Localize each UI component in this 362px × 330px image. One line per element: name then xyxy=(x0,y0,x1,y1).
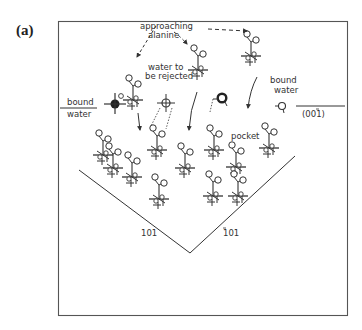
bound-water-right-molecule xyxy=(275,103,286,114)
bound-water-dark xyxy=(210,94,227,112)
water-to-be-rejected xyxy=(151,94,175,129)
label-face-101-left: 101 xyxy=(141,228,157,238)
crystal-diagram: approaching alanine water to be rejected… xyxy=(0,0,362,330)
bound-water-left-molecule xyxy=(104,93,126,114)
face-bar101-wall xyxy=(190,156,295,253)
label-pocket: pocket xyxy=(231,131,260,141)
label-face-001: (001) xyxy=(302,109,325,119)
label-alanine: alanine xyxy=(148,30,179,40)
label-water-left: water xyxy=(67,109,92,119)
label-face-101-right: 101 xyxy=(223,228,239,238)
label-water-right: water xyxy=(274,85,299,95)
label-be-rejected: be rejected xyxy=(145,71,193,81)
figure-frame xyxy=(59,22,348,316)
face-101-wall xyxy=(79,170,190,253)
label-bound-left: bound xyxy=(67,97,94,107)
label-bound-right: bound xyxy=(270,75,297,85)
